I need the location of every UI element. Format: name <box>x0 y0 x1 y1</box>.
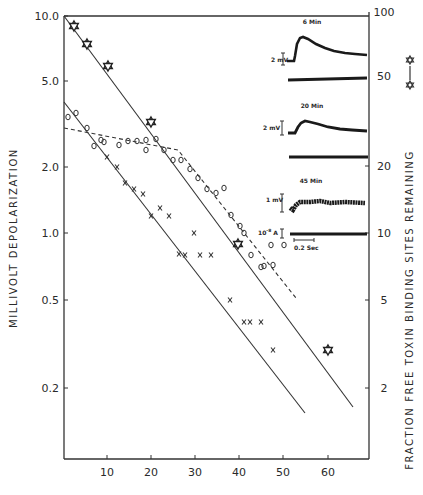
star-fit-line <box>64 16 353 407</box>
x-tick-30: 30 <box>188 466 202 479</box>
scale-1mv: 1 mV <box>266 196 284 203</box>
y2-legend-symbol <box>407 56 414 89</box>
x-tick-labels: 10 20 30 40 50 60 <box>100 466 335 479</box>
y2-tick-10: 10 <box>377 227 391 240</box>
y2-tick-2: 2 <box>381 382 388 395</box>
star-series <box>70 21 333 355</box>
y2-tick-5: 5 <box>381 294 388 307</box>
inset-title-20min: 20 Min <box>301 102 324 109</box>
scale-2mv-b: 2 mV <box>263 124 281 131</box>
star-icon <box>407 56 414 64</box>
y-tick-0.5: 0.5 <box>42 294 60 307</box>
y-tick-10: 10.0 <box>35 10 60 23</box>
y2-tick-20: 20 <box>377 160 391 173</box>
scale-time: 0.2 Sec <box>294 244 319 251</box>
x-tick-50: 50 <box>276 466 290 479</box>
inset-title-45min: 45 Min <box>300 177 323 184</box>
y2-tick-50: 50 <box>377 70 391 83</box>
scale-2mv: 2 mV <box>271 56 289 63</box>
y-tick-labels: 10.0 5.0 2.0 1.0 0.5 0.2 <box>35 10 60 395</box>
x-tick-60: 60 <box>321 466 335 479</box>
y2-tick-100: 100 <box>374 6 395 19</box>
y-tick-0.2: 0.2 <box>42 382 60 395</box>
inset-6-min: 6 Min 2 mV <box>271 18 367 80</box>
x-tick-20: 20 <box>144 466 158 479</box>
y-tick-1: 1.0 <box>42 227 60 240</box>
chart: 10.0 5.0 2.0 1.0 0.5 0.2 MILLIVOLT DEPOL… <box>0 0 423 495</box>
y-tick-2: 2.0 <box>42 161 60 174</box>
scale-current: 10-8A <box>258 228 278 236</box>
x-fit-line <box>64 102 305 413</box>
inset-45-min: 45 Min 1 mV 10-8A 0.2 Sec <box>258 177 367 251</box>
y2-tick-labels: 100 50 20 10 5 2 <box>374 6 395 395</box>
y-axis-title: MILLIVOLT DEPOLARIZATION <box>8 148 19 328</box>
o-fit-dashed-line <box>64 128 296 298</box>
y2-axis-title: FRACTION FREE TOXIN BINDING SITES REMAIN… <box>404 150 415 470</box>
star-icon <box>407 81 414 89</box>
inset-20-min: 20 Min 2 mV <box>263 102 368 157</box>
x-tick-10: 10 <box>100 466 114 479</box>
y-tick-5: 5.0 <box>42 75 60 88</box>
inset-title-6min: 6 Min <box>303 18 322 25</box>
x-tick-40: 40 <box>232 466 246 479</box>
fit-lines <box>64 16 353 413</box>
